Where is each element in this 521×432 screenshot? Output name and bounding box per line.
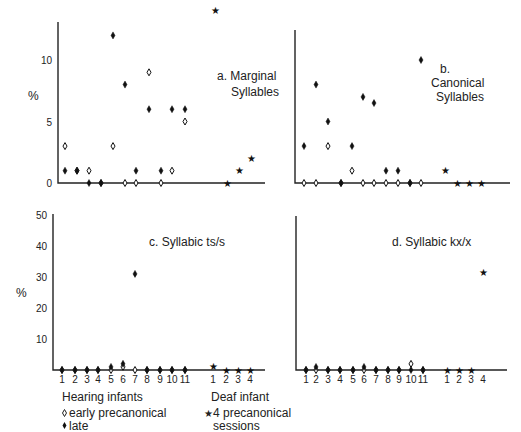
- x-tick-label-hearing: 2: [72, 374, 78, 385]
- x-tick-label-deaf: 2: [223, 374, 229, 385]
- panel-title: d. Syllabic kx/x: [392, 235, 471, 249]
- x-tick-label-hearing: 10: [405, 374, 417, 385]
- data-point-early: [384, 180, 388, 187]
- data-point-late: [158, 367, 162, 374]
- data-point-late: [397, 367, 401, 374]
- data-point-star: ★: [235, 165, 244, 176]
- x-tick-label-deaf: 1: [210, 374, 216, 385]
- data-point-star: ★: [455, 365, 464, 376]
- data-point-late: [314, 81, 318, 88]
- data-point-star: ★: [477, 178, 486, 189]
- data-point-early: [123, 180, 127, 187]
- x-tick-label-hearing: 5: [350, 374, 356, 385]
- panel-title: Syllables: [436, 90, 484, 104]
- legend-early-marker: [63, 410, 67, 417]
- data-point-late: [99, 180, 103, 187]
- panel-b: b.CanonicalSyllables★★★★: [295, 30, 510, 189]
- panel-title: Canonical: [431, 76, 484, 90]
- data-point-late: [326, 367, 330, 374]
- data-point-star: ★: [234, 365, 243, 376]
- data-point-late: [326, 118, 330, 125]
- data-point-late: [304, 367, 308, 374]
- data-point-late: [351, 367, 355, 374]
- legend-late-label: late: [69, 419, 89, 432]
- legend: Hearing infants early precanonical late …: [62, 390, 291, 432]
- data-point-early: [314, 180, 318, 187]
- y-tick-label: 20: [36, 303, 48, 314]
- data-point-late: [73, 367, 77, 374]
- y-tick-label: 10: [41, 55, 53, 66]
- x-tick-label-hearing: 4: [337, 374, 343, 385]
- data-point-late: [361, 93, 365, 100]
- panel-d: d. Syllabic kx/x12345678910111234★★★★: [296, 216, 507, 385]
- data-point-early: [419, 180, 423, 187]
- x-tick-label-deaf: 4: [480, 374, 486, 385]
- x-tick-label-deaf: 4: [247, 374, 253, 385]
- legend-late-marker: [63, 422, 67, 429]
- data-point-early: [183, 118, 187, 125]
- x-tick-label-hearing: 3: [325, 374, 331, 385]
- data-point-late: [302, 143, 306, 150]
- data-point-late: [60, 367, 64, 374]
- data-point-late: [409, 367, 413, 374]
- data-point-late: [170, 367, 174, 374]
- x-tick-label-hearing: 3: [84, 374, 90, 385]
- data-point-late: [87, 180, 91, 187]
- x-tick-label-hearing: 11: [180, 374, 191, 385]
- data-point-star: ★: [453, 178, 462, 189]
- x-tick-label-hearing: 7: [132, 374, 138, 385]
- data-point-late: [147, 106, 151, 113]
- panel-c: 1020304050%c. Syllabic ts/s1234567891011…: [16, 210, 265, 385]
- x-tick-label-hearing: 10: [166, 374, 178, 385]
- panel-title: a. Marginal: [217, 69, 276, 83]
- data-point-early: [302, 180, 306, 187]
- legend-hearing-title: Hearing infants: [62, 390, 143, 404]
- x-tick-label-hearing: 11: [418, 374, 429, 385]
- x-tick-label-deaf: 3: [235, 374, 241, 385]
- data-point-late: [183, 367, 187, 374]
- data-point-star: ★: [211, 5, 220, 16]
- x-tick-label-hearing: 2: [313, 374, 319, 385]
- data-point-star: ★: [465, 178, 474, 189]
- x-tick-label-hearing: 7: [373, 374, 379, 385]
- x-tick-label-hearing: 5: [108, 374, 114, 385]
- data-point-early: [134, 180, 138, 187]
- data-point-late: [183, 106, 187, 113]
- data-point-early: [361, 180, 365, 187]
- legend-deaf-title: Deaf infant: [211, 390, 270, 404]
- y-tick-label: 50: [36, 210, 48, 221]
- data-point-star: ★: [209, 361, 218, 372]
- legend-sessions-line2: sessions: [213, 419, 260, 432]
- y-tick-label: 10: [36, 334, 48, 345]
- data-point-early: [147, 69, 151, 76]
- data-point-late: [396, 167, 400, 174]
- data-point-late: [133, 270, 137, 277]
- x-tick-label-deaf: 3: [468, 374, 474, 385]
- data-point-star: ★: [479, 267, 488, 278]
- data-point-star: ★: [441, 165, 450, 176]
- panel-title: c. Syllabic ts/s: [149, 235, 225, 249]
- y-tick-label: 30: [36, 272, 48, 283]
- data-point-early: [170, 167, 174, 174]
- x-tick-label-hearing: 9: [157, 374, 163, 385]
- axis-lines: [58, 22, 265, 183]
- data-point-star: ★: [246, 365, 255, 376]
- data-point-early: [159, 180, 163, 187]
- panel-title: b.: [440, 62, 450, 76]
- data-point-early: [326, 143, 330, 150]
- data-point-star: ★: [443, 365, 452, 376]
- x-tick-label-hearing: 8: [144, 374, 150, 385]
- data-point-late: [85, 367, 89, 374]
- legend-early-label: early precanonical: [69, 406, 166, 420]
- panel-a: 0510%a. MarginalSyllables★★★★: [28, 5, 279, 189]
- legend-sessions-line1: 4 precanonical: [213, 406, 291, 420]
- data-point-late: [408, 180, 412, 187]
- x-tick-label-hearing: 1: [59, 374, 65, 385]
- axis-lines: [295, 30, 510, 183]
- data-point-late: [384, 167, 388, 174]
- y-tick-label: 40: [36, 241, 48, 252]
- y-axis-label: %: [16, 286, 27, 300]
- data-point-late: [123, 81, 127, 88]
- data-point-late: [350, 143, 354, 150]
- x-tick-label-hearing: 8: [385, 374, 391, 385]
